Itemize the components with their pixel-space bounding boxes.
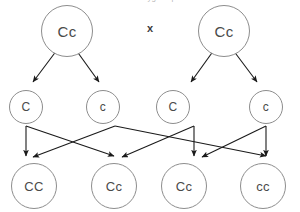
offspring-node-3-label: Cc [176,180,193,193]
gamete-node-1: C [9,90,43,124]
gamete-node-3-label: C [169,101,178,113]
offspring-node-2-label: Cc [106,180,123,193]
gamete-node-4-label: c [263,101,269,113]
parent-node-1-label: Cc [58,24,77,39]
gamete-node-2: c [86,90,120,124]
parent-node-2-label: Cc [215,24,234,39]
offspring-node-3: Cc [161,163,207,209]
edge-gamete1-offspring2 [26,126,114,156]
offspring-node-4-label: cc [256,180,270,193]
offspring-node-2: Cc [91,163,137,209]
offspring-node-1-label: CC [24,180,43,193]
genetics-cross-diagram: Results of a cross between two heterozyg… [0,0,300,212]
cross-symbol: x [140,22,160,34]
edge-gamete4-offspring4 [202,126,266,157]
edge-parent2-gamete3 [191,50,214,82]
gamete-node-4: c [249,90,283,124]
edge-parent2-gamete4 [233,50,257,82]
edge-gamete2-offspring4 [115,126,266,156]
gamete-to-offspring-edges [26,126,266,157]
edge-parent1-gamete2 [76,50,99,82]
gamete-node-2-label: c [100,101,106,113]
offspring-node-4: cc [240,163,286,209]
gamete-node-1-label: C [22,101,31,113]
edge-gamete4-offspring2 [122,126,194,157]
gamete-node-3: C [156,90,190,124]
edge-parent1-gamete1 [33,50,57,82]
parent-node-1: Cc [41,5,93,57]
parent-node-2: Cc [198,5,250,57]
offspring-node-1: CC [11,163,57,209]
